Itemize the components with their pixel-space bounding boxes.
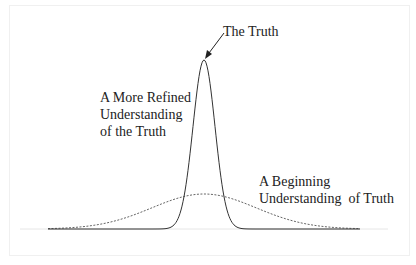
arrow-icon: [205, 33, 224, 59]
beginning-label-line-2: Understanding of Truth: [259, 191, 394, 206]
beginning-label-line-1: A Beginning: [259, 174, 330, 189]
truth-label: The Truth: [223, 23, 279, 40]
refined-label-line-1: A More Refined: [100, 90, 191, 105]
refined-label-line-2: Understanding: [100, 107, 182, 122]
refined-label-line-3: of the Truth: [100, 124, 166, 139]
beginning-understanding-label: A BeginningUnderstanding of Truth: [259, 173, 394, 207]
refined-understanding-label: A More RefinedUnderstandingof the Truth: [100, 89, 191, 140]
curves-canvas: [0, 0, 416, 265]
truth-distribution-diagram: The Truth A More RefinedUnderstandingof …: [0, 0, 416, 265]
